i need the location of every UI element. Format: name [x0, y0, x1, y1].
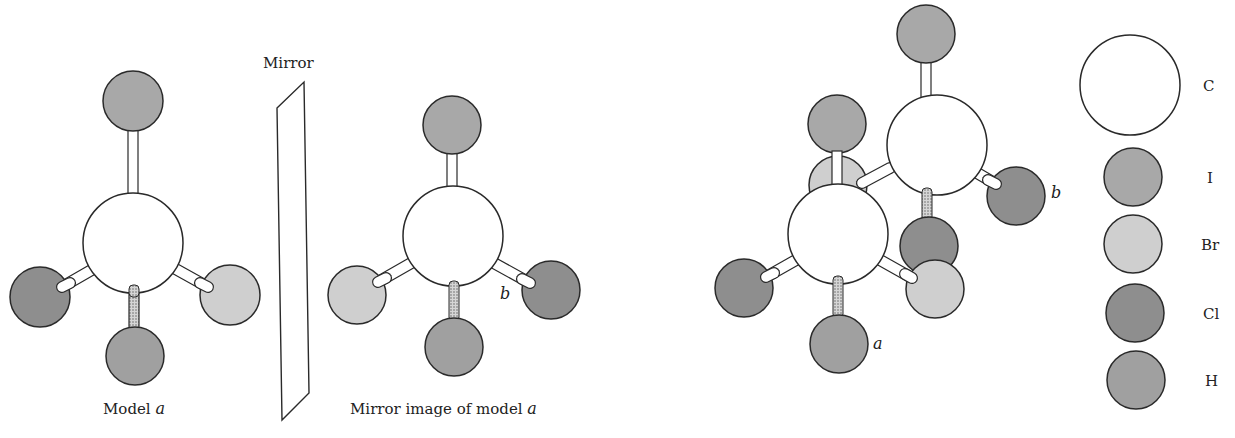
back-atom-right-chlorine: [987, 167, 1045, 225]
legend-swatch-hydrogen: [1107, 351, 1165, 409]
bond-top: [128, 128, 138, 196]
back-atom-top: [897, 5, 955, 63]
legend-label-hydrogen: H: [1205, 372, 1218, 390]
legend-label-iodine: I: [1207, 169, 1213, 187]
composite-marker-b: b: [1051, 183, 1061, 202]
legend-label-carbon: C: [1203, 77, 1214, 95]
atom-bottom-hydrogen: [425, 318, 483, 376]
legend-swatch-chlorine: [1106, 284, 1164, 342]
legend-swatch-bromine: [1104, 215, 1162, 273]
mirror-image-caption: Mirror image of model a: [350, 399, 537, 418]
front-atom-top-iodine: [808, 95, 866, 153]
front-atom-carbon: [788, 184, 888, 284]
atom-left-bromine: [328, 266, 386, 324]
legend-label-chlorine: Cl: [1203, 305, 1219, 323]
atom-top-iodine: [423, 96, 481, 154]
front-atom-left-chlorine: [715, 259, 773, 317]
mirror-image-model: b Mirror image of model a: [328, 96, 580, 418]
atom-right-bromine: [200, 265, 260, 325]
bond-top: [447, 150, 457, 190]
back-atom-carbon: [887, 95, 987, 195]
legend-swatch-carbon: [1080, 35, 1180, 135]
atom-carbon: [83, 193, 183, 293]
enantiomer-diagram: Model a Mirror b Mirror image of model a: [0, 0, 1235, 438]
composite-model: b a: [715, 5, 1061, 373]
front-bond-bottom-stippled: [833, 276, 843, 318]
legend-swatch-iodine: [1104, 148, 1162, 206]
atom-right-chlorine: [522, 261, 580, 319]
mirror-label: Mirror: [263, 54, 315, 72]
legend: C I Br Cl H: [1080, 35, 1220, 409]
front-atom-right-bromine: [906, 260, 964, 318]
atom-left-chlorine: [10, 267, 70, 327]
atom-bottom-hydrogen: [106, 327, 164, 385]
model-a: Model a: [10, 71, 260, 418]
front-atom-bottom-hydrogen: [810, 315, 868, 373]
bond-bottom-stippled: [449, 281, 459, 321]
model-a-caption: Model a: [103, 399, 165, 418]
mirror-plane: Mirror: [263, 54, 315, 420]
back-bond-top: [921, 58, 931, 100]
composite-marker-a: a: [873, 334, 883, 353]
legend-label-bromine: Br: [1201, 236, 1220, 254]
atom-carbon: [403, 186, 503, 286]
marker-b: b: [500, 284, 510, 303]
atom-top-iodine: [103, 71, 163, 131]
